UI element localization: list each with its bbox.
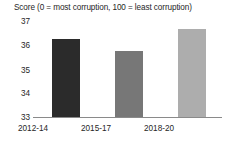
x-axis-line <box>33 117 222 118</box>
chart-title: Score (0 = most corruption, 100 = least … <box>14 3 192 12</box>
y-tick-label-36: 36 <box>10 41 30 50</box>
y-tick-label-37: 37 <box>10 17 30 26</box>
bar-series <box>33 16 222 117</box>
x-tick-label-2018-20: 2018-20 <box>124 124 194 133</box>
x-tick-label-2015-17: 2015-17 <box>61 124 131 133</box>
x-tick-label-2012-14: 2012-14 <box>0 124 68 133</box>
bar-2012-14 <box>52 39 80 117</box>
y-tick-label-33: 33 <box>10 113 30 122</box>
y-tick-label-34: 34 <box>10 89 30 98</box>
bar-chart-figure: Score (0 = most corruption, 100 = least … <box>0 0 244 142</box>
y-tick-label-35: 35 <box>10 66 30 75</box>
bar-2015-17 <box>115 51 143 117</box>
bar-2018-20 <box>178 29 206 117</box>
